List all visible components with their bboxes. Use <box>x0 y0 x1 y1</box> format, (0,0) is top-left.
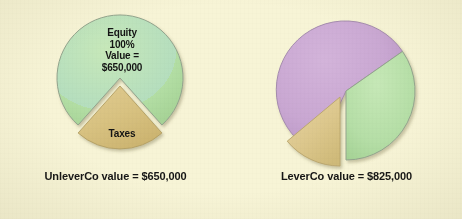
unleverco-caption: UnleverCo value = $650,000 <box>0 170 231 182</box>
leverco-pie-svg <box>231 0 462 219</box>
chart-panel-unleverco: Equity 100% Value = $650,000 Taxes Unlev… <box>0 0 231 219</box>
unleverco-taxes-label: Taxes <box>94 128 150 140</box>
unleverco-equity-name: Equity <box>84 27 160 39</box>
leverco-caption: LeverCo value = $825,000 <box>231 170 462 182</box>
pie-chart-figure: Equity 100% Value = $650,000 Taxes Unlev… <box>0 0 462 219</box>
unleverco-equity-value-amount: $650,000 <box>84 62 160 74</box>
chart-panel-leverco: Debt 50% Value = $500,000 Equity 50% Val… <box>231 0 462 219</box>
unleverco-taxes-name: Taxes <box>94 128 150 140</box>
unleverco-equity-percent: 100% <box>84 39 160 51</box>
unleverco-equity-value-key: Value = <box>84 50 160 62</box>
unleverco-equity-label: Equity 100% Value = $650,000 <box>84 27 160 73</box>
